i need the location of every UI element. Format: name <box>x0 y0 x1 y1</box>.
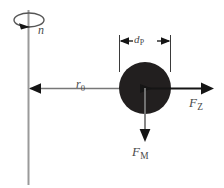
gravity-force-arrowhead-icon <box>140 129 151 142</box>
label-particle-diameter-dp: dP <box>134 34 144 45</box>
label-fz-symbol: F <box>189 95 197 110</box>
label-fm-symbol: F <box>132 144 140 159</box>
diagram-canvas <box>0 0 224 188</box>
radius-arrowhead-left-icon <box>29 83 41 94</box>
label-r0-symbol: r <box>76 77 81 91</box>
dimension-arrowhead-right-icon <box>161 37 171 45</box>
centrifugal-force-arrowhead-icon <box>201 83 214 95</box>
label-gravity-force-fm: FM <box>132 145 148 158</box>
label-fm-subscript: M <box>140 151 148 161</box>
label-n-symbol: n <box>38 23 44 37</box>
figure-container: n r0 dP FZ FM <box>0 0 224 188</box>
label-dp-subscript: P <box>140 38 144 47</box>
label-fz-subscript: Z <box>197 102 203 112</box>
label-dp-symbol: d <box>134 33 140 45</box>
label-radius-r0: r0 <box>76 78 85 90</box>
label-rotation-speed-n: n <box>38 24 44 36</box>
dimension-arrowhead-left-icon <box>120 37 130 45</box>
label-r0-subscript: 0 <box>81 83 85 93</box>
label-centrifugal-force-fz: FZ <box>189 96 203 109</box>
